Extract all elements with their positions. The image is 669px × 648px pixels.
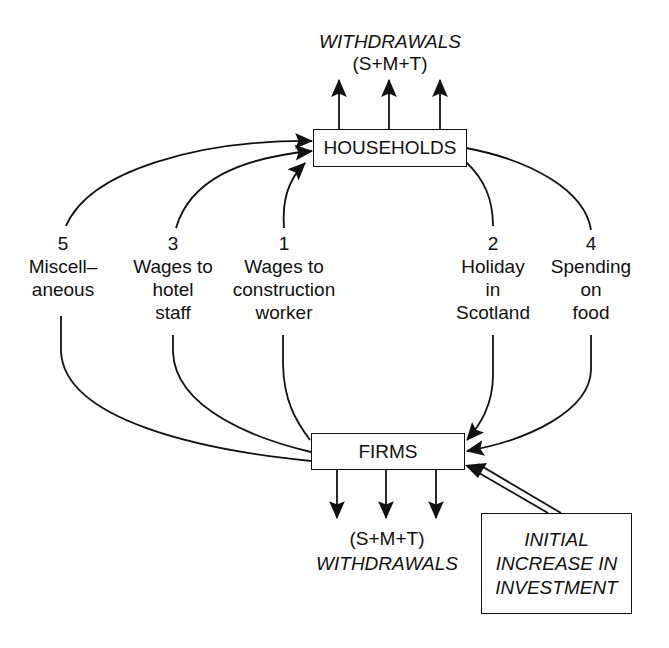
flow-3-number: 3 bbox=[118, 232, 228, 255]
flow-2-number: 2 bbox=[442, 232, 544, 255]
firms-label: FIRMS bbox=[358, 441, 417, 463]
flow-2-line-2: in bbox=[442, 278, 544, 301]
injection-line-3: INVESTMENT bbox=[495, 576, 617, 600]
flow-3-upper bbox=[176, 151, 312, 228]
flow-2-line-1: Holiday bbox=[442, 255, 544, 278]
flow-3-lower bbox=[173, 335, 311, 452]
flow-2-lower bbox=[467, 335, 493, 440]
flow-4-lower bbox=[467, 335, 591, 451]
flow-4-number: 4 bbox=[540, 232, 642, 255]
flow-1-line-3: worker bbox=[222, 301, 346, 324]
households-label: HOUSEHOLDS bbox=[323, 137, 456, 159]
bottom-withdrawals-formula: (S+M+T) bbox=[297, 527, 477, 550]
flow-4-label: 4 Spending on food bbox=[540, 232, 642, 324]
flow-5-number: 5 bbox=[11, 232, 115, 255]
flow-4-line-1: Spending bbox=[540, 255, 642, 278]
flow-1-label: 1 Wages to construction worker bbox=[222, 232, 346, 324]
top-withdrawals-formula: (S+M+T) bbox=[300, 52, 480, 75]
households-node: HOUSEHOLDS bbox=[313, 129, 467, 167]
initial-investment-node: INITIAL INCREASE IN INVESTMENT bbox=[481, 513, 632, 614]
injection-line-2: INCREASE IN bbox=[496, 552, 617, 576]
top-withdrawals-title: WITHDRAWALS bbox=[300, 30, 480, 53]
injection-line-1: INITIAL bbox=[524, 528, 588, 552]
flow-1-number: 1 bbox=[222, 232, 346, 255]
bottom-withdrawals-title: WITHDRAWALS bbox=[297, 552, 477, 575]
flow-5-upper bbox=[66, 141, 312, 226]
flow-2-upper bbox=[466, 162, 493, 226]
flow-3-label: 3 Wages to hotel staff bbox=[118, 232, 228, 324]
flow-1-line-2: construction bbox=[222, 278, 346, 301]
flow-5-line-2: aneous bbox=[11, 278, 115, 301]
flow-3-line-1: Wages to bbox=[118, 255, 228, 278]
flow-5-line-1: Miscell– bbox=[11, 255, 115, 278]
flow-4-line-3: food bbox=[540, 301, 642, 324]
flow-1-lower bbox=[283, 335, 310, 440]
flow-3-line-2: hotel bbox=[118, 278, 228, 301]
flow-2-line-3: Scotland bbox=[442, 301, 544, 324]
firms-node: FIRMS bbox=[311, 433, 465, 470]
flow-3-line-3: staff bbox=[118, 301, 228, 324]
injection-arrow-line-a bbox=[474, 470, 548, 513]
flow-5-label: 5 Miscell– aneous bbox=[11, 232, 115, 301]
injection-arrow-line-b bbox=[478, 464, 561, 513]
flow-1-line-1: Wages to bbox=[222, 255, 346, 278]
flow-2-label: 2 Holiday in Scotland bbox=[442, 232, 544, 324]
flow-4-upper bbox=[466, 148, 591, 230]
flow-4-line-2: on bbox=[540, 278, 642, 301]
flow-1-upper bbox=[284, 163, 305, 228]
